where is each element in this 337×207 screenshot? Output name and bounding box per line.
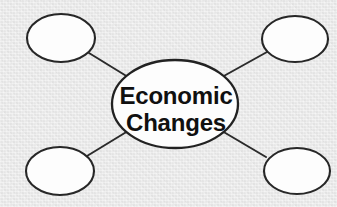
connector-center-to-bottom-right — [222, 131, 266, 157]
connector-center-to-top-left — [89, 53, 128, 77]
satellite-node-top-left[interactable] — [27, 14, 95, 62]
diagram-canvas: Economic Changes — [0, 0, 337, 207]
satellite-node-bottom-left[interactable] — [26, 147, 94, 195]
satellite-node-bottom-right[interactable] — [264, 148, 330, 194]
center-node-label-line-2: Changes — [126, 109, 226, 136]
connector-center-to-top-right — [222, 52, 267, 77]
center-node-group: Economic Changes — [112, 60, 238, 148]
center-node-label-line-1: Economic — [119, 82, 232, 109]
connector-center-to-bottom-left — [87, 131, 128, 156]
satellite-node-top-right[interactable] — [262, 16, 328, 62]
concept-map-diagram: Economic Changes — [0, 0, 337, 207]
